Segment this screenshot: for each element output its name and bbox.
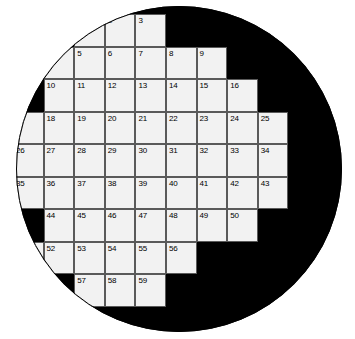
cell-number: 39: [138, 179, 147, 188]
cell-number: 40: [169, 179, 178, 188]
cell-number: 7: [138, 49, 142, 58]
grid-cell[interactable]: 8: [166, 47, 197, 80]
cell-number: 24: [230, 114, 239, 123]
grid-cell[interactable]: 6: [105, 47, 136, 80]
puzzle-grid: 1234567891011121314151617181920212223242…: [16, 6, 342, 332]
grid-cell[interactable]: 56: [166, 242, 197, 275]
grid-cell[interactable]: 11: [74, 79, 105, 112]
cell-number: 26: [16, 146, 25, 155]
grid-cell[interactable]: 16: [227, 79, 258, 112]
grid-cell[interactable]: 34: [258, 144, 289, 177]
grid-cell[interactable]: 31: [166, 144, 197, 177]
grid-cell[interactable]: 46: [105, 209, 136, 242]
grid-cell[interactable]: 7: [135, 47, 166, 80]
grid-cell[interactable]: 18: [44, 112, 75, 145]
grid-cell[interactable]: 49: [197, 209, 228, 242]
grid-cell[interactable]: 21: [135, 112, 166, 145]
grid-cell[interactable]: 58: [105, 274, 136, 307]
grid-cell[interactable]: 24: [227, 112, 258, 145]
grid-cell[interactable]: 48: [166, 209, 197, 242]
grid-cell[interactable]: 26: [16, 144, 44, 177]
cell-number: 16: [230, 81, 239, 90]
cell-number: 56: [169, 244, 178, 253]
cell-number: 6: [108, 49, 112, 58]
cell-number: 1: [77, 16, 81, 25]
cell-number: 9: [200, 49, 204, 58]
cell-number: 34: [261, 146, 270, 155]
cell-number: 11: [77, 81, 85, 90]
grid-cell[interactable]: 42: [227, 177, 258, 210]
grid-cell[interactable]: 38: [105, 177, 136, 210]
cell-number: 8: [169, 49, 173, 58]
puzzle-grid-clip: 1234567891011121314151617181920212223242…: [16, 6, 342, 332]
grid-cell[interactable]: 39: [135, 177, 166, 210]
cell-number: 38: [108, 179, 117, 188]
grid-cell[interactable]: 10: [44, 79, 75, 112]
grid-cell[interactable]: 2: [105, 14, 136, 47]
grid-cell[interactable]: 45: [74, 209, 105, 242]
grid-cell[interactable]: 9: [197, 47, 228, 80]
grid-cell[interactable]: 25: [258, 112, 289, 145]
grid-cell[interactable]: 43: [258, 177, 289, 210]
grid-cell[interactable]: 59: [135, 274, 166, 307]
grid-cell[interactable]: 20: [105, 112, 136, 145]
cell-number: 2: [108, 16, 112, 25]
grid-cell[interactable]: 30: [135, 144, 166, 177]
cell-number: 45: [77, 211, 86, 220]
grid-cell[interactable]: 57: [74, 274, 105, 307]
cell-number: 50: [230, 211, 239, 220]
cell-number: 4: [47, 49, 51, 58]
grid-cell[interactable]: 36: [44, 177, 75, 210]
grid-cell[interactable]: 12: [105, 79, 136, 112]
grid-cell[interactable]: 5: [74, 47, 105, 80]
cell-number: 37: [77, 179, 86, 188]
grid-cell[interactable]: 15: [197, 79, 228, 112]
grid-cell[interactable]: 52: [44, 242, 75, 275]
cell-number: 22: [169, 114, 178, 123]
grid-cell[interactable]: 37: [74, 177, 105, 210]
grid-cell[interactable]: 55: [135, 242, 166, 275]
cell-number: 5: [77, 49, 81, 58]
cell-number: 32: [200, 146, 209, 155]
grid-cell[interactable]: 4: [44, 47, 75, 80]
grid-cell[interactable]: 35: [16, 177, 44, 210]
cell-number: 42: [230, 179, 239, 188]
grid-cell[interactable]: 40: [166, 177, 197, 210]
cell-number: 23: [200, 114, 209, 123]
grid-cell[interactable]: 14: [166, 79, 197, 112]
cell-number: 55: [138, 244, 147, 253]
grid-cell[interactable]: 13: [135, 79, 166, 112]
grid-cell[interactable]: 44: [44, 209, 75, 242]
grid-cell[interactable]: 51: [16, 242, 44, 275]
cell-number: 35: [16, 179, 25, 188]
grid-cell[interactable]: 32: [197, 144, 228, 177]
grid-cell[interactable]: 27: [44, 144, 75, 177]
grid-cell[interactable]: 54: [105, 242, 136, 275]
cell-number: 21: [138, 114, 147, 123]
grid-cell[interactable]: 19: [74, 112, 105, 145]
cell-number: 18: [47, 114, 56, 123]
grid-cell[interactable]: 47: [135, 209, 166, 242]
cell-number: 43: [261, 179, 270, 188]
grid-cell[interactable]: 1: [74, 14, 105, 47]
grid-cell[interactable]: 28: [74, 144, 105, 177]
cell-number: 14: [169, 81, 178, 90]
cell-number: 53: [77, 244, 86, 253]
grid-cell[interactable]: 33: [227, 144, 258, 177]
cell-number: 20: [108, 114, 117, 123]
cell-number: 54: [108, 244, 117, 253]
grid-cell[interactable]: 3: [135, 14, 166, 47]
cell-number: 28: [77, 146, 86, 155]
grid-cell[interactable]: 22: [166, 112, 197, 145]
cell-number: 10: [47, 81, 56, 90]
grid-cell[interactable]: 50: [227, 209, 258, 242]
grid-cell[interactable]: 23: [197, 112, 228, 145]
cell-number: 49: [200, 211, 209, 220]
cell-number: 48: [169, 211, 178, 220]
grid-cell[interactable]: 41: [197, 177, 228, 210]
grid-cell[interactable]: 53: [74, 242, 105, 275]
cell-number: 13: [138, 81, 147, 90]
cell-number: 36: [47, 179, 56, 188]
grid-cell[interactable]: 29: [105, 144, 136, 177]
grid-cell[interactable]: 17: [16, 112, 44, 145]
